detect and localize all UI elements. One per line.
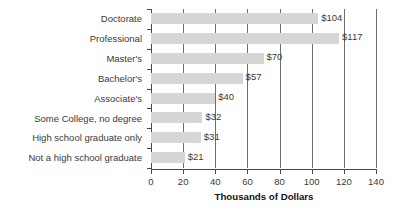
y-axis-tick (147, 9, 152, 10)
category-label: Master's (106, 54, 142, 64)
bar (151, 93, 215, 104)
plot-area: $104$117$70$57$40$32$31$21 (151, 9, 376, 168)
bar (151, 73, 243, 84)
x-axis-tick (183, 169, 184, 174)
bar-value-label: $32 (205, 111, 221, 122)
category-label: Not a high school graduate (28, 153, 142, 163)
category-label: Professional (90, 34, 142, 44)
category-label: High school graduate only (32, 133, 142, 143)
x-axis-tick (312, 169, 313, 174)
bar (151, 53, 264, 64)
bar (151, 152, 185, 163)
bar-value-label: $21 (188, 151, 204, 162)
bar (151, 132, 201, 143)
x-axis-tick (280, 169, 281, 174)
bar-value-label: $70 (267, 51, 283, 62)
bar-value-label: $57 (246, 71, 262, 82)
x-axis-title: Thousands of Dollars (151, 191, 377, 202)
x-axis-tick-label: 140 (368, 176, 384, 187)
x-axis-tick-label: 80 (274, 176, 285, 187)
bar-row: $70 (151, 49, 376, 69)
x-axis-tick-label: 60 (242, 176, 253, 187)
category-label-row: Master's (106, 49, 142, 69)
category-axis-labels: DoctorateProfessionalMaster'sBachelor'sA… (0, 9, 147, 168)
y-axis-tick (147, 89, 152, 90)
y-axis-tick (147, 128, 152, 129)
category-label-row: Bachelor's (98, 69, 142, 89)
bar-row: $117 (151, 29, 376, 49)
bar-value-label: $117 (342, 31, 362, 42)
y-axis-tick (147, 29, 152, 30)
y-axis-tick (147, 108, 152, 109)
x-axis-tick-label: 100 (304, 176, 320, 187)
bar (151, 33, 339, 44)
category-label: Some College, no degree (34, 114, 142, 124)
category-label-row: High school graduate only (32, 128, 142, 148)
category-label: Doctorate (101, 14, 142, 24)
bar-row: $57 (151, 69, 376, 89)
bar-chart: DoctorateProfessionalMaster'sBachelor'sA… (0, 0, 406, 215)
bar-row: $32 (151, 108, 376, 128)
x-axis-tick-label: 40 (210, 176, 221, 187)
bar-row: $31 (151, 128, 376, 148)
category-label-row: Doctorate (101, 9, 142, 29)
x-axis-tick-label: 20 (178, 176, 189, 187)
x-axis-tick (247, 169, 248, 174)
category-label-row: Associate's (94, 89, 142, 109)
bar-row: $40 (151, 89, 376, 109)
x-axis-tick-label: 120 (336, 176, 352, 187)
bar-value-label: $104 (321, 12, 342, 23)
bar-row: $21 (151, 148, 376, 168)
x-axis-tick (215, 169, 216, 174)
x-axis-tick (376, 169, 377, 174)
bar-value-label: $40 (218, 91, 234, 102)
bar (151, 112, 202, 123)
x-axis-tick-label: 0 (148, 176, 153, 187)
gridline (376, 9, 377, 168)
bar-row: $104 (151, 9, 376, 29)
y-axis-tick (147, 148, 152, 149)
x-axis-tick (344, 169, 345, 174)
bar (151, 13, 318, 24)
category-label-row: Not a high school graduate (28, 148, 142, 168)
category-label: Bachelor's (98, 74, 142, 84)
category-label-row: Some College, no degree (34, 108, 142, 128)
x-axis-tick (151, 169, 152, 174)
y-axis-tick (147, 49, 152, 50)
category-label-row: Professional (90, 29, 142, 49)
y-axis-tick (147, 69, 152, 70)
bar-value-label: $31 (204, 131, 220, 142)
category-label: Associate's (94, 94, 142, 104)
